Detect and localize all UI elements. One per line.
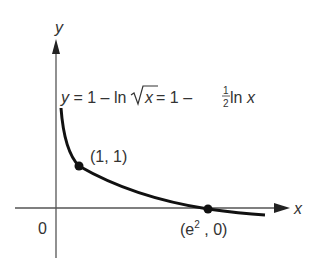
point-1-1 [75, 162, 84, 171]
svg-text:x: x [144, 89, 154, 106]
origin-label: 0 [38, 220, 47, 237]
svg-text:1: 1 [223, 85, 229, 96]
x-axis-label: x [293, 200, 303, 217]
svg-text:2: 2 [223, 98, 229, 109]
log-function-diagram: y x 0 (1, 1) (e2 , 0) y = 1 – ln x = 1 –… [0, 0, 318, 276]
y-axis-arrow-icon [52, 39, 60, 54]
svg-text:= 1 –: = 1 – [156, 89, 192, 106]
point-1-1-label: (1, 1) [90, 148, 127, 165]
point-e2-0 [204, 205, 213, 214]
point-e2-0-label: (e2 , 0) [180, 219, 227, 238]
svg-text:ln x: ln x [230, 89, 256, 106]
y-axis-label: y [54, 19, 64, 36]
equation-label: y = 1 – ln x = 1 – 1 2 ln x [60, 85, 256, 109]
svg-text:y = 1 – ln: y = 1 – ln [60, 89, 126, 106]
x-axis-arrow-icon [274, 203, 290, 213]
